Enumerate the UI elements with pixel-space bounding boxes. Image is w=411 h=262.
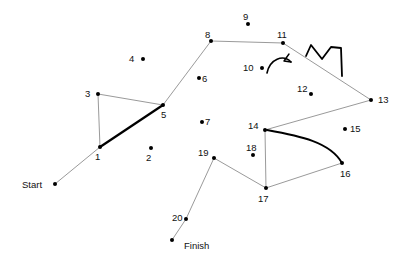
dot-label-finish: Finish <box>184 241 209 251</box>
dot-label-9: 9 <box>243 12 248 22</box>
dot-2[interactable] <box>149 146 153 150</box>
dot-label-13: 13 <box>378 95 389 105</box>
dot-4[interactable] <box>141 57 145 61</box>
dot-13[interactable] <box>369 98 373 102</box>
dot-19[interactable] <box>212 156 216 160</box>
rotation-arrow-icon <box>267 54 291 73</box>
dot-label-4: 4 <box>129 54 134 64</box>
dot-label-8: 8 <box>205 30 210 40</box>
dot-label-12: 12 <box>297 84 308 94</box>
dot-1[interactable] <box>98 145 102 149</box>
segment-14-to-17 <box>265 130 266 188</box>
curve-14-to-16-stroke <box>267 130 342 163</box>
dot-3[interactable] <box>96 92 100 96</box>
segment-1-to-3 <box>98 94 100 147</box>
dot-label-2: 2 <box>146 153 151 163</box>
freehand-strokes-layer <box>267 45 342 163</box>
zigzag-crown-stroke <box>306 45 342 76</box>
connect-the-dots-puzzle: Start1234567891011121314151617181920Fini… <box>0 0 411 262</box>
dot-12[interactable] <box>309 92 313 96</box>
dot-label-6: 6 <box>202 74 207 84</box>
segment-17-to-16 <box>266 163 342 188</box>
dot-label-14: 14 <box>248 121 259 131</box>
dot-label-11: 11 <box>277 30 287 40</box>
dot-start[interactable] <box>53 182 57 186</box>
dot-5[interactable] <box>161 103 165 107</box>
dot-label-start: Start <box>22 180 42 190</box>
dot-finish[interactable] <box>170 238 174 242</box>
dot-label-17: 17 <box>258 194 269 204</box>
segment-19-to-17 <box>214 158 266 188</box>
dot-20[interactable] <box>184 217 188 221</box>
dot-label-15: 15 <box>350 124 361 134</box>
dot-10[interactable] <box>260 66 264 70</box>
dot-label-18: 18 <box>246 143 257 153</box>
path-segments-layer <box>55 41 371 240</box>
dot-14[interactable] <box>263 128 267 132</box>
dot-label-3: 3 <box>85 89 90 99</box>
dot-15[interactable] <box>343 127 347 131</box>
dot-6[interactable] <box>197 76 201 80</box>
segment-1-to-5 <box>100 105 163 147</box>
dot-18[interactable] <box>251 153 255 157</box>
dot-17[interactable] <box>264 186 268 190</box>
dot-label-19: 19 <box>198 148 209 158</box>
dot-label-7: 7 <box>205 117 210 127</box>
segment-3-to-5 <box>98 94 163 105</box>
segment-19-to-20 <box>186 158 214 219</box>
dot-16[interactable] <box>340 161 344 165</box>
dot-9[interactable] <box>246 22 250 26</box>
dot-label-20: 20 <box>172 213 183 223</box>
dot-label-5: 5 <box>161 110 166 120</box>
dot-7[interactable] <box>200 120 204 124</box>
segment-8-to-11 <box>211 41 283 43</box>
dot-label-1: 1 <box>95 152 100 162</box>
dot-label-10: 10 <box>243 63 254 73</box>
rotation-arrow <box>267 58 291 73</box>
dot-11[interactable] <box>281 41 285 45</box>
dot-label-16: 16 <box>340 169 351 179</box>
segment-start-to-1 <box>55 147 100 184</box>
